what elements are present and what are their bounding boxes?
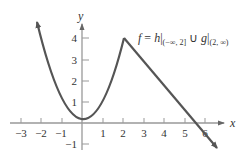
y-tick-label: −1 (65, 138, 77, 150)
y-tick-label: 2 (72, 75, 78, 87)
y-tick-label: 4 (72, 32, 78, 44)
function-label: f = h|(−∞, 2] ∪ g|(2, ∞) (138, 31, 229, 47)
y-tick-label: 1 (72, 96, 78, 108)
x-ticks (21, 118, 205, 123)
x-tick-labels: −3 −2 −1 1 2 3 4 5 6 (15, 127, 208, 139)
line-g-segment (124, 38, 217, 148)
x-axis-label: x (229, 116, 236, 130)
piecewise-function-chart: −3 −2 −1 1 2 3 4 5 6 4 3 2 1 −1 x y f = … (0, 0, 250, 153)
y-axis-label: y (77, 9, 84, 23)
y-tick-label: 3 (72, 54, 78, 66)
x-tick-label: 4 (161, 127, 167, 139)
y-tick-labels: 4 3 2 1 −1 (65, 32, 77, 150)
x-tick-label: 1 (100, 127, 106, 139)
x-tick-label: −2 (35, 127, 47, 139)
x-tick-label: −3 (15, 127, 27, 139)
x-tick-label: 3 (141, 127, 147, 139)
parabola-h-curve (37, 22, 124, 119)
x-tick-label: 2 (120, 127, 126, 139)
y-ticks (82, 38, 89, 144)
x-tick-label: 5 (182, 127, 188, 139)
